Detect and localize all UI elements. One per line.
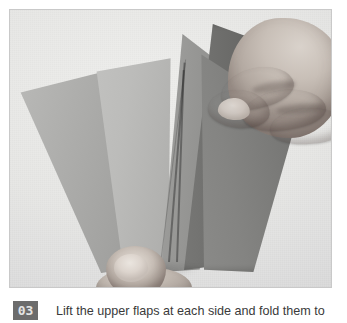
- upper-hand: [222, 16, 332, 144]
- lower-hand: [96, 242, 200, 288]
- caption-row: 03 Lift the upper flaps at each side and…: [0, 296, 347, 323]
- instruction-photo: [9, 9, 332, 288]
- caption-text: Lift the upper flaps at each side and fo…: [56, 304, 347, 319]
- lower-thumb-nail: [114, 254, 148, 282]
- step-number-badge: 03: [13, 301, 38, 320]
